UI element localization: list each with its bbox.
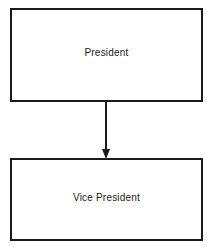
vice-president-label: Vice President	[73, 192, 140, 203]
vice-president-box: Vice President	[10, 158, 203, 241]
